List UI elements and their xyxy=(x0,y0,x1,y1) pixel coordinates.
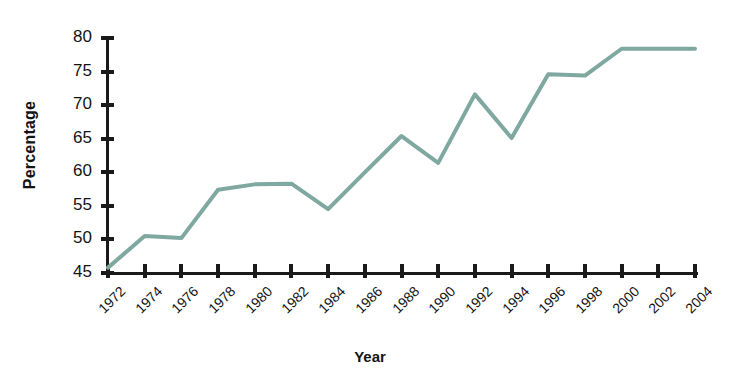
x-tick-label-text: 1972 xyxy=(95,283,128,316)
plot-area xyxy=(108,38,695,273)
y-tick-label-80: 80 xyxy=(56,27,92,47)
y-axis-title: Percentage xyxy=(0,0,60,290)
x-tick-label-text: 2002 xyxy=(645,283,678,316)
x-axis-title: Year xyxy=(0,348,740,365)
x-tick-label-text: 1974 xyxy=(132,283,165,316)
data-line-svg xyxy=(108,38,695,273)
x-tick-label-text: 2004 xyxy=(682,283,715,316)
y-tick-label-65: 65 xyxy=(56,128,92,148)
x-tick-label-text: 1986 xyxy=(352,283,385,316)
y-axis-title-text: Percentage xyxy=(21,101,39,189)
x-tick-label-text: 1984 xyxy=(315,283,348,316)
x-tick-label-text: 1978 xyxy=(205,283,238,316)
x-tick-label-text: 1976 xyxy=(168,283,201,316)
x-tick-label-text: 1980 xyxy=(242,283,275,316)
x-tick-label-text: 1982 xyxy=(278,283,311,316)
x-tick-label-text: 2000 xyxy=(609,283,642,316)
x-tick-label-2004: 2004 xyxy=(704,261,737,294)
y-tick-label-60: 60 xyxy=(56,161,92,181)
data-line-series-percentage xyxy=(108,49,695,268)
x-tick-label-text: 1992 xyxy=(462,283,495,316)
x-tick-label-text: 1990 xyxy=(425,283,458,316)
chart-figure: Percentage 45505560657075801972197419761… xyxy=(0,0,740,384)
x-tick-label-text: 1988 xyxy=(388,283,421,316)
x-tick-label-text: 1998 xyxy=(572,283,605,316)
x-tick-label-text: 1994 xyxy=(499,283,532,316)
y-tick-label-75: 75 xyxy=(56,61,92,81)
y-tick-label-50: 50 xyxy=(56,228,92,248)
y-tick-label-55: 55 xyxy=(56,195,92,215)
x-tick-label-text: 1996 xyxy=(535,283,568,316)
y-tick-label-70: 70 xyxy=(56,94,92,114)
y-tick-label-45: 45 xyxy=(56,262,92,282)
